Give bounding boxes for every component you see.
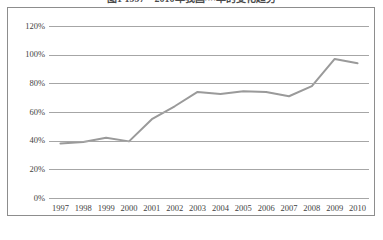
x-tick-label: 2000 — [121, 203, 138, 213]
gridline — [49, 112, 369, 113]
x-tick-label: 2002 — [166, 203, 183, 213]
gridline — [49, 169, 369, 170]
x-tick-label: 2005 — [235, 203, 252, 213]
y-tick-label: 60% — [29, 108, 45, 117]
gridline — [49, 83, 369, 84]
x-tick-label: 2004 — [212, 203, 229, 213]
y-tick-label: 120% — [25, 22, 45, 31]
gridline — [49, 55, 369, 56]
y-axis-labels: 0%20%40%60%80%100%120% — [17, 26, 45, 198]
y-tick-label: 80% — [29, 79, 45, 88]
gridline — [49, 26, 369, 27]
chart-title-strip: 图1 1997—2010年我国××率的变化趋势 — [0, 0, 383, 7]
y-tick-label: 40% — [29, 136, 45, 145]
x-tick-label: 2007 — [281, 203, 298, 213]
x-tick-label: 2003 — [189, 203, 206, 213]
x-axis-labels: 1997199819992000200120022003200420052006… — [49, 203, 369, 217]
x-tick-label: 2001 — [143, 203, 160, 213]
x-tick-label: 2010 — [349, 203, 366, 213]
chart-frame: 0%20%40%60%80%100%120% 19971998199920002… — [7, 7, 375, 216]
plot-area — [49, 26, 369, 198]
gridline — [49, 141, 369, 142]
chart-title: 图1 1997—2010年我国××率的变化趋势 — [0, 0, 383, 5]
x-tick-label: 1997 — [52, 203, 69, 213]
x-tick-label: 2008 — [303, 203, 320, 213]
x-tick-label: 1998 — [75, 203, 92, 213]
y-tick-label: 20% — [29, 165, 45, 174]
x-tick-label: 2006 — [258, 203, 275, 213]
y-tick-label: 100% — [25, 50, 45, 59]
gridline — [49, 198, 369, 199]
x-tick-label: 2009 — [326, 203, 343, 213]
series-line — [60, 59, 357, 144]
x-tick-label: 1999 — [98, 203, 115, 213]
y-tick-label: 0% — [34, 194, 45, 203]
